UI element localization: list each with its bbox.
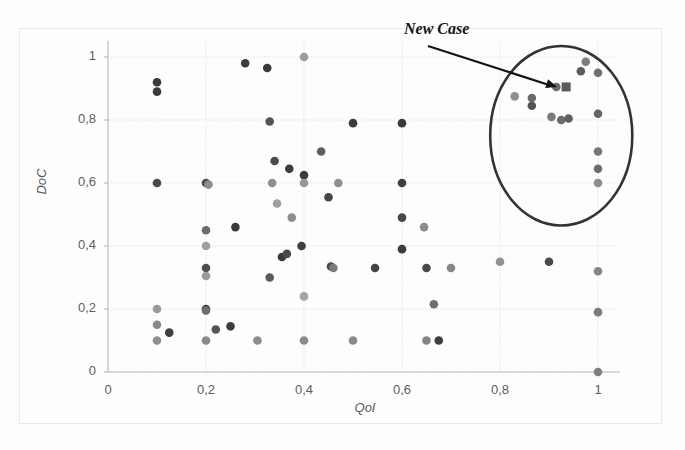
data-point [430, 300, 439, 309]
data-point [594, 109, 603, 118]
data-point [510, 92, 519, 101]
data-point [545, 257, 554, 266]
new-case-annotation-label: New Case [404, 20, 469, 38]
data-point [268, 179, 277, 188]
y-tick-label: 1 [56, 48, 96, 63]
data-point [297, 242, 306, 251]
data-point [300, 292, 309, 301]
data-point [528, 102, 537, 111]
data-point [212, 325, 221, 334]
x-tick-label: 0,2 [186, 382, 226, 397]
x-tick-label: 0,8 [480, 382, 520, 397]
data-point [594, 165, 603, 174]
data-point [371, 264, 380, 273]
data-point [434, 336, 443, 345]
data-point [334, 179, 343, 188]
data-point [283, 250, 292, 259]
data-point [270, 157, 279, 166]
data-point [594, 179, 603, 188]
data-point [300, 179, 309, 188]
data-point [564, 114, 573, 123]
data-point [528, 94, 537, 103]
data-point [349, 119, 358, 128]
y-tick-label: 0 [56, 363, 96, 378]
data-point [594, 267, 603, 276]
data-point [153, 336, 162, 345]
data-point [153, 78, 162, 87]
data-point [265, 273, 274, 282]
x-tick-label: 0,6 [382, 382, 422, 397]
data-point [153, 179, 162, 188]
data-point [317, 147, 326, 156]
data-point [594, 147, 603, 156]
data-point [398, 213, 407, 222]
data-point [285, 165, 294, 174]
x-tick-label: 0 [88, 382, 128, 397]
data-point [153, 87, 162, 96]
data-point [447, 264, 456, 273]
data-point [204, 180, 213, 189]
data-point [226, 322, 235, 331]
scatter-plot-figure: DoC QoI 00,20,40,60,81 00,20,40,60,81 Ne… [0, 0, 685, 450]
y-tick-label: 0,2 [56, 300, 96, 315]
data-point [594, 68, 603, 77]
x-tick-label: 1 [578, 382, 618, 397]
data-point [496, 257, 505, 266]
new-case-marker [562, 82, 571, 91]
data-point [557, 116, 566, 125]
data-point [202, 226, 211, 235]
data-point [547, 113, 556, 122]
data-point [231, 223, 240, 232]
data-point [202, 306, 211, 315]
data-point [594, 308, 603, 317]
axis-lines [104, 41, 620, 372]
data-point [594, 368, 603, 377]
data-point [577, 67, 586, 76]
gridlines [108, 41, 620, 372]
data-point [273, 199, 282, 208]
data-point [581, 57, 590, 66]
data-point [329, 264, 338, 273]
data-point [241, 59, 250, 68]
data-point [420, 223, 429, 232]
data-point [422, 336, 431, 345]
data-point [349, 336, 358, 345]
data-point [202, 336, 211, 345]
data-point [300, 53, 309, 62]
data-point [324, 193, 333, 202]
data-point [265, 117, 274, 126]
data-point [153, 305, 162, 314]
data-point [300, 171, 309, 180]
data-point [253, 336, 262, 345]
x-tick-label: 0,4 [284, 382, 324, 397]
data-point [202, 272, 211, 281]
y-tick-label: 0,4 [56, 237, 96, 252]
y-tick-label: 0,6 [56, 174, 96, 189]
data-point [287, 213, 296, 222]
data-point [300, 336, 309, 345]
data-point [398, 245, 407, 254]
data-point [202, 264, 211, 273]
data-point [153, 320, 162, 329]
data-point [422, 264, 431, 273]
y-tick-label: 0,8 [56, 111, 96, 126]
data-point [165, 328, 174, 337]
data-points[interactable] [153, 53, 603, 377]
y-axis-label: DoC [34, 152, 49, 212]
data-point [263, 64, 272, 73]
data-point [202, 242, 211, 251]
x-axis-label: QoI [330, 400, 400, 415]
data-point [398, 119, 407, 128]
data-point [398, 179, 407, 188]
